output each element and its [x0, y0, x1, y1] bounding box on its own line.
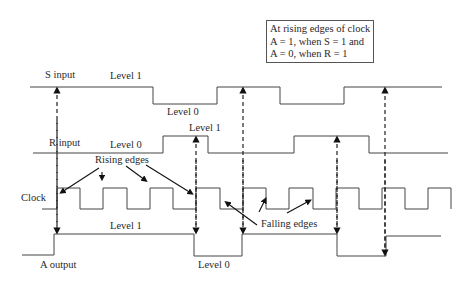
s-level-0-label: Level 0 [167, 107, 199, 118]
note-line-1: At rising edges of clock [270, 23, 370, 36]
s-input-label: S input [45, 70, 75, 81]
a-output-waveform [22, 234, 441, 256]
s-level-1-label: Level 1 [110, 71, 142, 82]
a-output-label: A output [40, 260, 76, 271]
rule-note-box: At rising edges of clock A = 1, when S =… [266, 20, 374, 63]
r-level-1-label: Level 1 [189, 123, 221, 134]
clock-waveform [42, 188, 451, 209]
s-input-waveform [30, 87, 442, 104]
sampling-arrows [57, 90, 385, 254]
r-input-label: R input [49, 138, 80, 149]
note-line-3: A = 0, when R = 1 [270, 48, 370, 61]
rising-edges-label: Rising edges [95, 155, 149, 166]
r-input-waveform [33, 136, 448, 153]
r-level-0-label: Level 0 [110, 140, 142, 151]
clock-label: Clock [21, 193, 46, 204]
falling-edges-label: Falling edges [261, 219, 317, 230]
a-level-1-label: Level 1 [110, 221, 142, 232]
note-line-2: A = 1, when S = 1 and [270, 36, 370, 49]
a-level-0-label: Level 0 [198, 260, 230, 271]
